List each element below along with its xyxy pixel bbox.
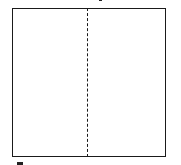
dashed-fold-line (87, 8, 88, 157)
square-outline (12, 8, 166, 157)
cropped-text-fragment-top (99, 0, 102, 1)
cropped-text-fragment-bottom (17, 162, 23, 165)
